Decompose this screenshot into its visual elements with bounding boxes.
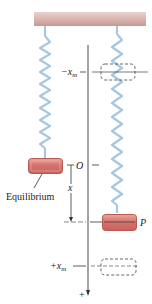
equilibrium-pointer bbox=[34, 174, 42, 188]
ceiling-support bbox=[34, 12, 146, 26]
displaced-block-p bbox=[103, 215, 137, 231]
right-spring bbox=[112, 26, 122, 213]
spring-block-diagram: Equilibrium + −xm O x P bbox=[0, 0, 152, 304]
displacement-x-dimension bbox=[69, 165, 73, 222]
vertical-axis bbox=[86, 45, 90, 296]
pos-xm-marker bbox=[73, 259, 137, 275]
neg-xm-label: −xm bbox=[61, 66, 77, 79]
p-label: P bbox=[139, 217, 146, 228]
equilibrium-block bbox=[29, 159, 63, 174]
axis-plus-label: + bbox=[79, 289, 85, 300]
left-spring bbox=[40, 26, 50, 158]
equilibrium-label: Equilibrium bbox=[6, 191, 55, 202]
displacement-x-label: x bbox=[67, 182, 73, 193]
origin-label: O bbox=[76, 160, 83, 171]
pos-xm-label: +xm bbox=[50, 260, 66, 273]
